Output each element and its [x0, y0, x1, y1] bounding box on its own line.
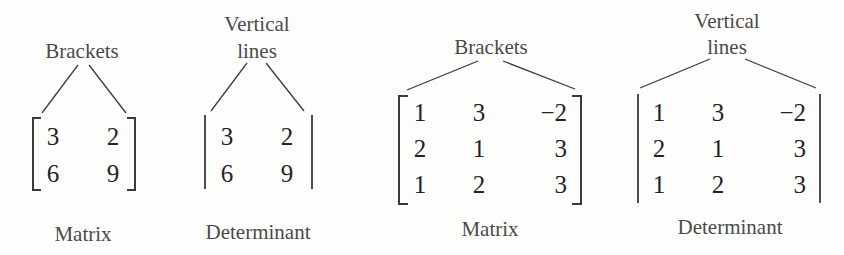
pointer-line-right — [503, 61, 575, 89]
determinant-cell-r1c2: 2 — [281, 122, 294, 152]
pointer-line-right — [89, 65, 126, 113]
matrix-cell-r3c2: 2 — [473, 170, 486, 200]
pointer-line-left — [407, 61, 478, 90]
determinant-cell-r3c1: 1 — [653, 170, 666, 200]
top-label-brackets: Brackets — [454, 34, 527, 60]
pointer-line-right — [745, 59, 816, 88]
determinant-cell-r2c1: 6 — [221, 159, 234, 189]
left-bracket-icon — [33, 118, 41, 190]
bottom-label-matrix: Matrix — [54, 221, 111, 247]
matrix-cell-r1c2: 2 — [107, 122, 120, 152]
top-label-lines: lines — [237, 38, 277, 64]
determinant-cell-r1c3: −2 — [779, 98, 806, 128]
top-label-brackets: Brackets — [45, 38, 118, 64]
bottom-label-matrix: Matrix — [461, 216, 518, 242]
matrix-cell-r3c1: 1 — [414, 170, 427, 200]
matrix-cell-r1c1: 3 — [47, 122, 60, 152]
matrix-cell-r2c3: 3 — [555, 134, 568, 164]
matrix-cell-r2c2: 9 — [107, 159, 120, 189]
bottom-label-determinant: Determinant — [678, 214, 783, 240]
matrix-cell-r1c1: 1 — [414, 98, 427, 128]
determinant-cell-r1c1: 1 — [653, 98, 666, 128]
pointer-line-left — [211, 63, 247, 111]
top-label-vertical: Vertical — [224, 11, 289, 37]
pointer-line-right — [266, 63, 304, 111]
pointer-line-left — [42, 65, 78, 113]
determinant-cell-r2c1: 2 — [653, 134, 666, 164]
determinant-cell-r1c2: 3 — [712, 98, 725, 128]
pointer-line-left — [640, 59, 710, 88]
matrix-cell-r3c3: 3 — [555, 170, 568, 200]
bottom-label-determinant: Determinant — [206, 219, 311, 245]
right-bracket-icon — [127, 118, 135, 190]
matrix-cell-r1c3: −2 — [540, 98, 567, 128]
determinant-cell-r2c3: 3 — [794, 134, 807, 164]
determinant-cell-r1c1: 3 — [221, 122, 234, 152]
determinant-cell-r3c2: 2 — [712, 170, 725, 200]
determinant-cell-r2c2: 1 — [712, 134, 725, 164]
left-bracket-icon — [399, 96, 408, 204]
matrix-cell-r2c1: 6 — [47, 159, 60, 189]
matrix-cell-r2c1: 2 — [414, 134, 427, 164]
determinant-cell-r3c3: 3 — [794, 170, 807, 200]
matrix-cell-r1c2: 3 — [473, 98, 486, 128]
top-label-vertical: Vertical — [694, 8, 759, 34]
determinant-cell-r2c2: 9 — [281, 159, 294, 189]
right-bracket-icon — [572, 96, 581, 204]
top-label-lines: lines — [707, 34, 747, 60]
matrix-cell-r2c2: 1 — [473, 134, 486, 164]
